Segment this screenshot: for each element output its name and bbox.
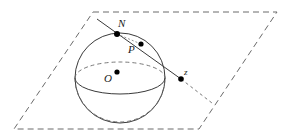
sphere-surface-point (138, 41, 143, 46)
stereographic-projection-figure: N P O z (0, 0, 291, 138)
lower-hemisphere-hidden-arc (75, 78, 165, 122)
plane-point-label: z (184, 68, 188, 77)
equator-back-arc (75, 62, 165, 78)
figure-canvas (0, 0, 291, 138)
projection-ray-dashed-extension (181, 79, 212, 103)
north-pole-point (114, 31, 120, 37)
plane-projection-point (178, 76, 184, 82)
sphere-point-label: P (128, 44, 135, 55)
plane-parallelogram (14, 12, 277, 129)
sphere-center-label: O (104, 73, 112, 84)
equator-front-arc (75, 78, 165, 94)
sphere-center-point (114, 69, 119, 74)
north-pole-label: N (118, 18, 125, 29)
projection-ray-solid (97, 19, 181, 79)
